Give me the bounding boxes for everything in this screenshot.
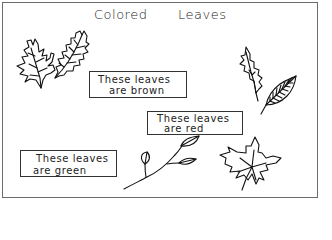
label-red-leaves: These leaves are red: [147, 111, 243, 135]
elm-leaf-icon: [261, 76, 296, 114]
label-brown-line1: These leaves: [98, 74, 171, 85]
oak-leaf-right-icon: [55, 31, 89, 78]
leafy-twig-icon: [124, 136, 199, 189]
label-green-leaves: These leaves are green: [20, 150, 117, 177]
label-red-line2: are red: [164, 123, 204, 134]
label-brown-leaves: These leaves are brown: [89, 71, 187, 98]
label-green-line1: These leaves: [36, 153, 109, 164]
label-green-line2: are green: [33, 165, 87, 176]
label-brown-line2: are brown: [109, 85, 165, 96]
oak-leaf-left-icon: [17, 39, 55, 88]
maple-leaf-icon: [220, 137, 281, 190]
holly-leaf-icon: [240, 47, 262, 101]
